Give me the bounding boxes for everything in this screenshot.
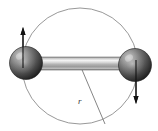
radius-leader-line — [80, 65, 105, 124]
left-mass-sphere — [10, 47, 43, 80]
rotor-diagram-canvas: r — [0, 0, 158, 131]
radius-label: r — [78, 96, 82, 106]
right-mass-sphere — [119, 49, 152, 82]
rigid-rotor-figure: r — [0, 0, 158, 131]
